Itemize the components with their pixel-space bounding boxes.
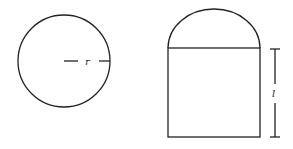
length-label: l: [272, 88, 275, 99]
radius-label: r: [85, 56, 91, 67]
diagram-canvas: r l: [0, 0, 293, 149]
semicircle-top: [168, 9, 260, 48]
rectangle-body: [168, 48, 260, 137]
circle-figure: r: [18, 15, 110, 107]
rect-semicircle-figure: l: [168, 9, 280, 137]
